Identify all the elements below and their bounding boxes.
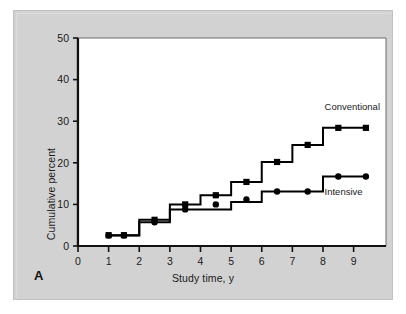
data-point-intensive (151, 219, 157, 225)
x-axis-title: Study time, y (0, 272, 406, 284)
x-tick-label: 9 (351, 255, 357, 267)
y-axis-title: Cumulative percent (45, 134, 57, 254)
y-tick-label: 0 (63, 240, 69, 252)
x-tick-label: 4 (198, 255, 204, 267)
data-point-intensive (121, 232, 127, 238)
data-point-conventional (335, 125, 341, 131)
data-point-conventional (305, 142, 311, 148)
data-point-intensive (335, 173, 341, 179)
data-point-conventional (274, 159, 280, 165)
data-point-conventional (213, 192, 219, 198)
series-annotation: Intensive (325, 186, 363, 197)
x-tick-label: 7 (289, 255, 295, 267)
data-point-intensive (363, 173, 369, 179)
x-tick-label: 0 (75, 255, 81, 267)
x-tick-label: 2 (136, 255, 142, 267)
data-point-intensive (304, 188, 310, 194)
y-tick-label: 40 (57, 73, 69, 85)
data-point-conventional (363, 125, 369, 131)
data-point-intensive (243, 196, 249, 202)
data-point-intensive (182, 206, 188, 212)
y-axis-title-wrapper: Cumulative percent (18, 60, 34, 230)
x-tick-label: 6 (259, 255, 265, 267)
x-tick-label: 3 (167, 255, 173, 267)
data-point-intensive (105, 232, 111, 238)
panel-letter-label: A (34, 268, 43, 283)
figure-container: 010203040500123456789ConventionalIntensi… (0, 0, 406, 314)
y-tick-label: 30 (57, 115, 69, 127)
x-tick-label: 8 (320, 255, 326, 267)
data-point-conventional (243, 179, 249, 185)
x-tick-label: 1 (106, 255, 112, 267)
chart-plot-area: 010203040500123456789ConventionalIntensi… (14, 11, 392, 299)
y-tick-label: 50 (57, 32, 69, 44)
y-tick-label: 10 (57, 198, 69, 210)
series-annotation: Conventional (325, 101, 380, 112)
data-point-intensive (213, 201, 219, 207)
x-tick-label: 5 (228, 255, 234, 267)
data-point-intensive (274, 188, 280, 194)
y-tick-label: 20 (57, 157, 69, 169)
